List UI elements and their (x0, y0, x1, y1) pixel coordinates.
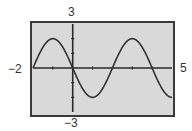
graph-plot (0, 0, 192, 131)
xmin-label: −2 (8, 63, 22, 75)
ymin-label: −3 (64, 117, 78, 129)
ymax-label: 3 (68, 6, 75, 18)
xmax-label: 5 (180, 62, 187, 74)
